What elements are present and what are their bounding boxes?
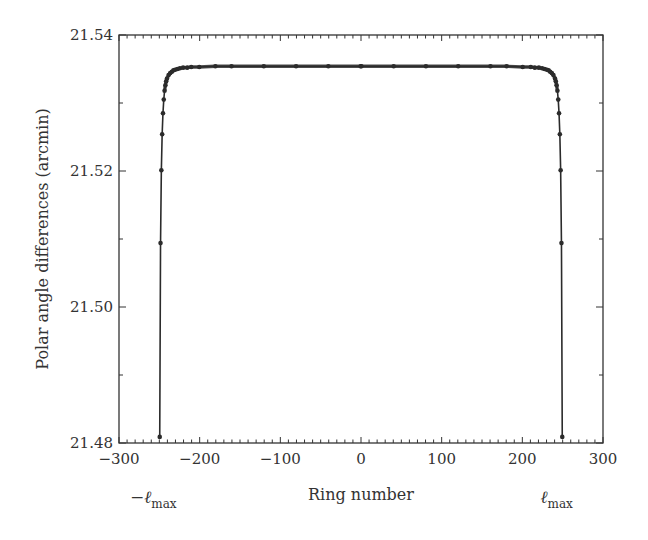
data-point-marker	[488, 64, 493, 69]
data-point-marker	[160, 132, 165, 137]
data-point-marker	[161, 97, 166, 102]
y-axis-ticks	[119, 35, 603, 443]
x-tick-label: 300	[589, 450, 618, 468]
data-point-marker	[559, 241, 564, 246]
x-tick-label: −300	[98, 450, 139, 468]
lmax-subscript: max	[548, 497, 574, 511]
data-point-marker	[157, 435, 162, 440]
data-point-marker	[456, 64, 461, 69]
data-point-marker	[391, 64, 396, 69]
data-point-marker	[229, 64, 234, 69]
data-point-marker	[359, 64, 364, 69]
lmax-annotation: −ℓmax	[130, 487, 177, 511]
y-axis-tick-labels: 21.4821.5021.5221.54	[70, 26, 113, 452]
y-tick-label: 21.50	[70, 298, 113, 316]
x-axis-tick-labels: −300−200−1000100200300	[98, 450, 617, 468]
data-point-marker	[163, 83, 168, 88]
data-point-marker	[162, 88, 167, 93]
data-point-marker	[159, 168, 164, 173]
y-tick-label: 21.54	[70, 26, 113, 44]
data-point-marker	[158, 241, 163, 246]
data-point-marker	[189, 65, 194, 70]
data-point-marker	[197, 65, 202, 70]
x-axis-ticks	[119, 35, 603, 443]
x-tick-label: −200	[179, 450, 220, 468]
data-point-marker	[556, 97, 561, 102]
data-point-marker	[554, 79, 559, 84]
x-tick-label: −100	[260, 450, 301, 468]
data-point-marker	[558, 132, 563, 137]
data-point-marker	[213, 64, 218, 69]
data-point-marker	[185, 65, 190, 70]
data-point-marker	[294, 64, 299, 69]
data-point-marker	[529, 65, 534, 70]
data-point-marker	[161, 111, 166, 116]
plot-frame	[119, 35, 603, 443]
data-point-marker	[181, 65, 186, 70]
data-point-marker	[261, 64, 266, 69]
x-tick-label: 0	[356, 450, 366, 468]
chart: −300−200−1000100200300 21.4821.5021.5221…	[0, 0, 648, 540]
data-point-marker	[554, 83, 559, 88]
data-point-marker	[560, 435, 565, 440]
data-point-marker	[520, 65, 525, 70]
data-point-marker	[555, 88, 560, 93]
data-point-marker	[326, 64, 331, 69]
lmax-subscript: max	[151, 497, 177, 511]
x-tick-label: 100	[427, 450, 456, 468]
series-plateau	[160, 66, 563, 437]
y-tick-label: 21.52	[70, 162, 113, 180]
data-series	[157, 64, 564, 439]
y-axis-title: Polar angle differences (arcmin)	[33, 108, 52, 369]
data-point-marker	[557, 111, 562, 116]
data-point-marker	[504, 64, 509, 69]
lmax-annotation: ℓmax	[540, 487, 573, 511]
x-tick-label: 200	[508, 450, 537, 468]
series-line	[160, 66, 563, 437]
x-axis-title: Ring number	[308, 485, 414, 504]
y-tick-label: 21.48	[70, 434, 113, 452]
data-point-marker	[424, 64, 429, 69]
plot-border	[119, 35, 603, 443]
data-point-marker	[533, 65, 538, 70]
data-point-marker	[558, 168, 563, 173]
